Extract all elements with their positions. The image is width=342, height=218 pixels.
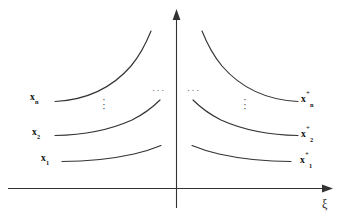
label-x-1-right: x+1 — [300, 154, 312, 167]
vertical-axis — [173, 9, 181, 208]
label-x-n-left-sub: n — [35, 98, 39, 105]
xi-axis-label: ξ — [322, 198, 327, 210]
label-x-2-right: x+2 — [301, 128, 313, 141]
label-x-2-right-sub: 2 — [310, 136, 313, 143]
label-x-2-left-sub: 2 — [37, 133, 40, 140]
left-curve-n — [55, 31, 151, 102]
label-x-n-right: x+n — [301, 93, 313, 106]
vertical-ellipsis-right: · · · — [241, 98, 249, 112]
left-curve-family — [55, 31, 161, 162]
vertical-axis-arrowhead — [173, 9, 181, 20]
diagram-canvas — [0, 0, 342, 218]
math-diagram: xn x2 x1 x+n x+2 x+1 · · · · · · ··· ···… — [0, 0, 342, 218]
horizontal-ellipsis-right: ··· — [187, 86, 201, 95]
right-curve-n — [202, 31, 298, 102]
horizontal-ellipsis-left: ··· — [152, 86, 166, 95]
horizontal-axis — [8, 185, 333, 193]
right-curve-1 — [192, 146, 291, 162]
left-curve-1 — [62, 146, 161, 162]
ellipsis-dot: · — [100, 107, 108, 112]
label-x-n-right-sup: + — [306, 89, 310, 96]
label-x-1-left-sub: 1 — [46, 159, 49, 166]
vertical-ellipsis-left: · · · — [100, 98, 108, 112]
horizontal-axis-arrowhead — [322, 185, 333, 193]
label-x-1-left: x1 — [41, 154, 49, 165]
ellipsis-dot: · — [241, 107, 249, 112]
label-x-n-left: xn — [30, 93, 38, 104]
label-x-1-right-sub: 1 — [309, 162, 312, 169]
label-x-2-right-sup: + — [306, 124, 310, 131]
label-x-2-left: x2 — [32, 128, 40, 139]
label-x-n-right-sub: n — [310, 101, 314, 108]
label-x-1-right-sup: + — [305, 150, 309, 157]
